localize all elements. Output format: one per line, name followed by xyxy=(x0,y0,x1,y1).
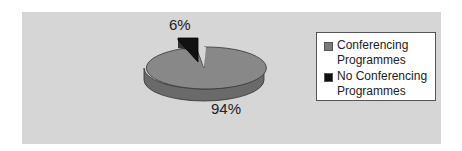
label-big-slice: 94% xyxy=(211,100,241,117)
legend-text-line2: Programmes xyxy=(337,84,427,99)
legend-text-line1: No Conferencing xyxy=(337,69,427,84)
legend-item-conferencing: Conferencing Programmes xyxy=(324,38,408,68)
legend-item-no-conferencing: No Conferencing Programmes xyxy=(324,69,427,99)
legend-swatch-black xyxy=(324,73,333,82)
label-small-slice: 6% xyxy=(169,16,191,33)
legend-swatch-gray xyxy=(324,42,333,51)
legend: Conferencing Programmes No Conferencing … xyxy=(316,32,436,101)
legend-text-line2: Programmes xyxy=(337,53,408,68)
slice-conferencing-top xyxy=(146,47,266,89)
legend-text-line1: Conferencing xyxy=(337,38,408,53)
